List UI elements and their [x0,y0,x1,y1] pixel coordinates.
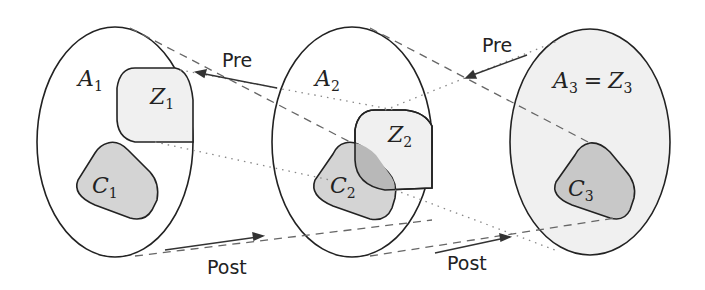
arrow-pre-2 [470,55,527,76]
diagram-canvas: A1 Z1 C1 A2 Z2 C2 A3=Z3 C3 [0,0,705,290]
set-a2: A2 Z2 C2 [272,27,432,257]
set-a1: A1 Z1 C1 [37,27,193,257]
arrow-pre-2-head-icon [466,71,476,78]
arrow-pre-1-head-icon [196,70,206,77]
label-pre-2: Pre [482,34,512,56]
label-post-2: Post [447,252,487,274]
arrow-pre-1 [200,73,277,88]
ellipse-a3 [510,29,670,255]
set-a3: A3=Z3 C3 [510,29,670,255]
label-pre-1: Pre [222,49,252,71]
arrow-post-1-head-icon [253,233,263,240]
label-post-1: Post [207,256,247,278]
arrow-post-1 [165,237,258,250]
label-a3-eq-z3: A3=Z3 [551,68,632,96]
